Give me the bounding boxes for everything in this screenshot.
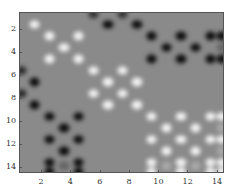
- y-tick-label: 4: [11, 48, 16, 56]
- x-tick-label: 10: [153, 178, 163, 186]
- heatmap-cell: [29, 77, 40, 87]
- heatmap-cell: [216, 54, 224, 64]
- heatmap-cell: [58, 146, 69, 156]
- heatmap-cell: [73, 31, 84, 41]
- x-tick-label: 4: [68, 178, 73, 186]
- x-tick-label: 14: [212, 178, 222, 186]
- heatmap-cell: [73, 112, 84, 122]
- y-tick-label: 10: [6, 117, 16, 125]
- heatmap-cell: [146, 31, 157, 41]
- heatmap-cell: [44, 54, 55, 64]
- heatmap-cell: [58, 161, 69, 171]
- heatmap-cell: [29, 20, 40, 30]
- heatmap-cell: [205, 158, 216, 168]
- heatmap-cell: [190, 123, 201, 133]
- x-tick-mark: [187, 170, 188, 173]
- heatmap-cell: [44, 158, 55, 168]
- heatmap-cell: [161, 123, 172, 133]
- heatmap-cell: [175, 167, 186, 173]
- heatmap-plot-area: [19, 12, 224, 173]
- heatmap-cell: [131, 20, 142, 30]
- x-tick-mark: [158, 170, 159, 173]
- x-tick-mark: [41, 170, 42, 173]
- heatmap-cell: [102, 100, 113, 110]
- heatmap-cell: [175, 158, 186, 168]
- x-tick-mark: [70, 170, 71, 173]
- heatmap-cell: [161, 43, 172, 53]
- x-tick-label: 12: [183, 178, 193, 186]
- heatmap-cell: [44, 31, 55, 41]
- x-tick-mark: [217, 170, 218, 173]
- y-tick-mark: [19, 167, 22, 168]
- y-tick-label: 6: [11, 71, 16, 79]
- heatmap-cell: [117, 66, 128, 76]
- heatmap-cell: [190, 146, 201, 156]
- x-tick-label: 8: [126, 178, 131, 186]
- heatmap-cell: [190, 161, 201, 171]
- heatmap-cell: [190, 43, 201, 53]
- heatmap-cell: [88, 89, 99, 99]
- y-tick-mark: [19, 52, 22, 53]
- heatmap-cell: [102, 20, 113, 30]
- heatmap-cell: [175, 112, 186, 122]
- y-tick-mark: [19, 98, 22, 99]
- heatmap-cell: [146, 112, 157, 122]
- heatmap-cell: [161, 161, 172, 171]
- y-tick-label: 8: [11, 94, 16, 102]
- heatmap-cell: [29, 100, 40, 110]
- x-tick-label: 6: [97, 178, 102, 186]
- heatmap-cell: [146, 158, 157, 168]
- heatmap-cell: [216, 123, 224, 133]
- heatmap-cell: [88, 66, 99, 76]
- heatmap-cell: [58, 123, 69, 133]
- heatmap-cell: [102, 77, 113, 87]
- heatmap-cell: [216, 31, 224, 41]
- heatmap-cell: [216, 112, 224, 122]
- heatmap-cell: [117, 89, 128, 99]
- heatmap-cell: [146, 167, 157, 173]
- heatmap-cell: [161, 146, 172, 156]
- heatmap-cell: [73, 54, 84, 64]
- y-tick-mark: [19, 121, 22, 122]
- heatmap-cell: [146, 54, 157, 64]
- y-tick-mark: [19, 75, 22, 76]
- x-tick-label: 2: [39, 178, 44, 186]
- heatmap-cells: [20, 13, 223, 172]
- heatmap-cell: [73, 135, 84, 145]
- y-tick-mark: [19, 29, 22, 30]
- heatmap-cell: [131, 100, 142, 110]
- heatmap-cell: [44, 112, 55, 122]
- y-tick-mark: [19, 144, 22, 145]
- heatmap-cell: [205, 112, 216, 122]
- heatmap-cell: [73, 158, 84, 168]
- heatmap-cell: [88, 12, 99, 19]
- x-tick-mark: [129, 170, 130, 173]
- heatmap-cell: [205, 167, 216, 173]
- heatmap-cell: [216, 158, 224, 168]
- heatmap-cell: [216, 135, 224, 145]
- heatmap-cell: [131, 77, 142, 87]
- heatmap-cell: [117, 12, 128, 19]
- x-tick-mark: [100, 170, 101, 173]
- y-tick-label: 14: [6, 163, 16, 171]
- heatmap-cell: [175, 31, 186, 41]
- heatmap-cell: [205, 54, 216, 64]
- heatmap-cell: [44, 135, 55, 145]
- heatmap-cell: [216, 146, 224, 156]
- heatmap-cell: [175, 135, 186, 145]
- heatmap-cell: [216, 43, 224, 53]
- heatmap-cell: [44, 167, 55, 173]
- y-tick-label: 2: [11, 25, 16, 33]
- heatmap-cell: [205, 31, 216, 41]
- heatmap-cell: [146, 135, 157, 145]
- heatmap-cell: [19, 89, 27, 99]
- heatmap-cell: [175, 54, 186, 64]
- heatmap-cell: [205, 135, 216, 145]
- heatmap-cell: [58, 43, 69, 53]
- heatmap-cell: [73, 167, 84, 173]
- heatmap-cell: [19, 66, 27, 76]
- y-tick-label: 12: [6, 140, 16, 148]
